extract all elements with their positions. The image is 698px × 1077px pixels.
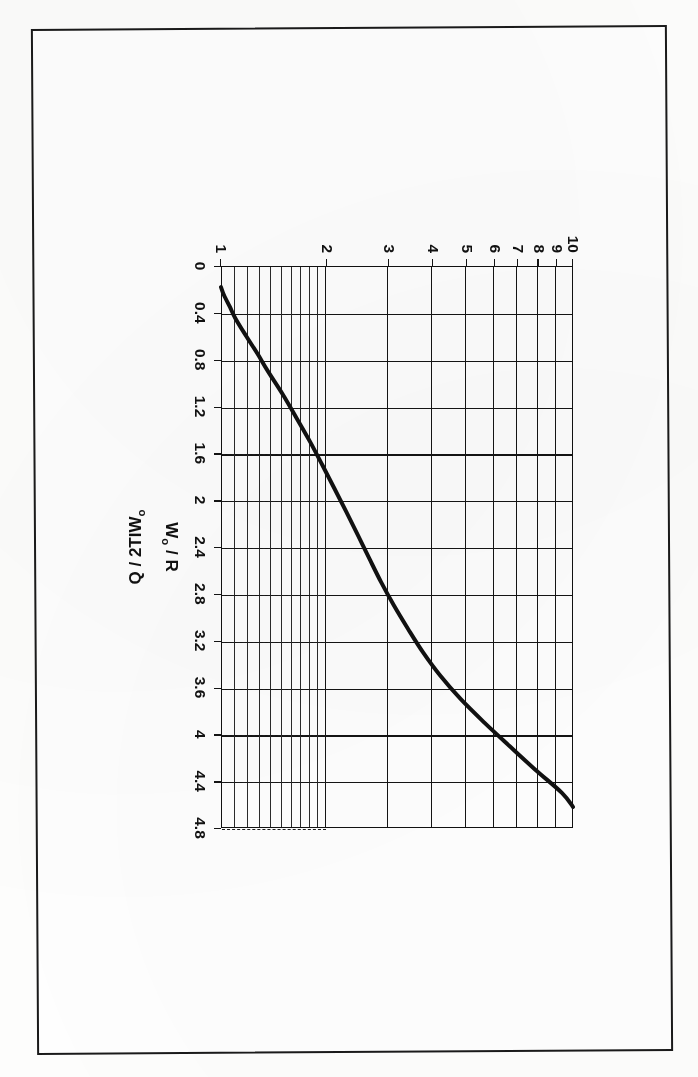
y-axis-title-subscript: o xyxy=(135,509,147,516)
chart-figure: 00.40.81.21.622.42.83.23.644.44.8 123456… xyxy=(89,188,609,888)
x-axis-title-tail: / R xyxy=(162,545,181,571)
x-axis-title-main: W xyxy=(162,522,181,538)
scanned-page: 00.40.81.21.622.42.83.23.644.44.8 123456… xyxy=(0,0,698,1077)
y-axis-title-main: Q / 2TIW xyxy=(126,517,145,585)
x-axis-title: Wo / R xyxy=(160,522,181,572)
rotated-figure-wrapper: 00.40.81.21.622.42.83.23.644.44.8 123456… xyxy=(89,188,609,888)
y-axis-title: Q / 2TIWo xyxy=(126,509,147,584)
